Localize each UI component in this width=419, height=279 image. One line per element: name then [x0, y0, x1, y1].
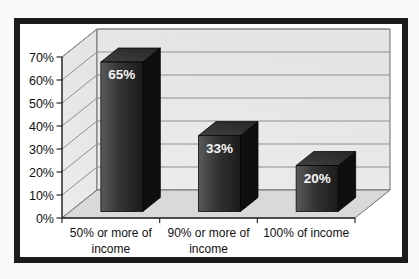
bar-side-face — [241, 122, 259, 212]
bar-front-face — [101, 62, 143, 212]
bar-side-face — [143, 48, 161, 212]
y-axis-tick-label: 20% — [29, 166, 54, 180]
bar-value-label: 33% — [206, 141, 233, 156]
bar-value-label: 65% — [108, 67, 135, 82]
y-axis-tick-label: 70% — [29, 51, 54, 65]
y-axis-tick-label: 60% — [29, 74, 54, 88]
y-axis-tick-label: 10% — [29, 189, 54, 203]
x-axis-category-label: income — [91, 242, 130, 256]
bar-group-2: 20% — [296, 152, 356, 212]
x-axis-category-label: 90% or more of — [167, 226, 250, 240]
x-axis-category-label: 50% or more of — [70, 226, 153, 240]
bar-group-0: 65% — [101, 48, 160, 212]
y-axis-tick-label: 0% — [36, 212, 54, 226]
bar-chart-3d: 65%33%20%0%10%20%30%40%50%60%70%50% or m… — [0, 0, 419, 279]
bar-group-1: 33% — [199, 122, 259, 212]
y-axis-tick-label: 50% — [29, 97, 54, 111]
chart-page: 65%33%20%0%10%20%30%40%50%60%70%50% or m… — [0, 0, 419, 279]
x-axis-category-label: income — [189, 242, 228, 256]
y-axis-tick-label: 40% — [29, 120, 54, 134]
x-axis-category-label: 100% of income — [263, 226, 349, 240]
y-axis-tick-label: 30% — [29, 143, 54, 157]
plot-left-wall — [62, 29, 97, 218]
bar-value-label: 20% — [304, 171, 331, 186]
